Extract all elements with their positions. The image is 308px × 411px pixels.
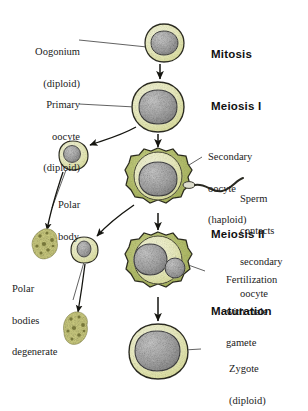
- stage-label-meiosis-i: Meiosis I: [211, 100, 261, 112]
- label-primary-oocyte: Primary oocyte (diploid): [8, 79, 80, 195]
- stage-label-maturation: Maturation: [211, 305, 272, 317]
- label-polar-bodies-degenerate-line3: degenerate: [12, 347, 98, 358]
- label-oogonium-line1: Oogonium: [8, 47, 80, 58]
- primary-oocyte-cell: [132, 82, 184, 132]
- zygote-cell: [129, 324, 188, 379]
- label-polar-body-line2: body: [58, 232, 118, 243]
- label-polar-body-line1: Polar: [58, 200, 118, 211]
- stage-label-meiosis-ii: Meiosis II: [211, 228, 265, 240]
- fertilized-oocyte-cell: [125, 232, 192, 287]
- degenerate-body-upper: [32, 229, 57, 259]
- label-zygote: Zygote (diploid): [229, 343, 303, 411]
- label-primary-oocyte-line1: Primary: [8, 100, 80, 111]
- label-secondary-oocyte-line1: Secondary: [208, 152, 304, 163]
- oogonium-cell: [145, 24, 184, 62]
- secondary-oocyte-cell: [125, 148, 192, 203]
- label-polar-bodies-degenerate-line1: Polar: [12, 284, 98, 295]
- label-sperm-contacts-line1: Sperm: [240, 194, 306, 205]
- label-fertilization-line1: Fertilization: [226, 275, 308, 286]
- label-polar-bodies-degenerate: Polar bodies degenerate: [12, 263, 98, 379]
- label-polar-bodies-degenerate-line2: bodies: [12, 316, 98, 327]
- label-primary-oocyte-line2: oocyte: [8, 132, 80, 143]
- label-zygote-line2: (diploid): [229, 396, 303, 407]
- label-zygote-line1: Zygote: [229, 364, 303, 375]
- label-primary-oocyte-line3: (diploid): [8, 163, 80, 174]
- stage-label-mitosis: Mitosis: [211, 48, 252, 60]
- label-polar-body: Polar body: [58, 179, 118, 263]
